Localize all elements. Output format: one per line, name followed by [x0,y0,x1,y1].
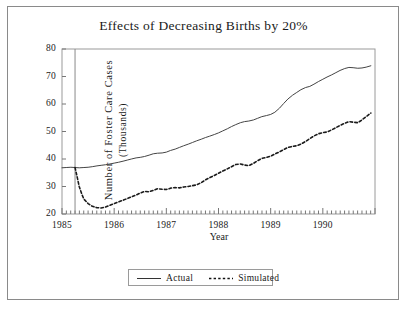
data-series [62,66,371,208]
y-tick-label: 20 [32,208,56,218]
legend-item-simulated: Simulated [209,273,279,283]
series-line-simulated [75,113,371,208]
x-tick-label: 1987 [146,220,186,230]
x-tick-label: 1990 [303,220,343,230]
x-tick-label: 1988 [199,220,239,230]
chart-legend: Actual Simulated [128,269,273,286]
legend-swatch-solid-icon [137,274,161,281]
x-tick-label: 1985 [42,220,82,230]
legend-label-actual: Actual [166,273,193,283]
y-tick-label: 80 [32,43,56,53]
y-tick-label: 40 [32,153,56,163]
chart-figure: Effects of Decreasing Births by 20% Numb… [0,0,407,309]
y-tick-label: 30 [32,181,56,191]
plot-area [0,0,407,309]
legend-item-actual: Actual [137,273,193,283]
x-tick-label: 1989 [251,220,291,230]
y-tick-label: 70 [32,71,56,81]
legend-label-simulated: Simulated [238,273,279,283]
series-line-actual [62,66,371,168]
y-tick-label: 50 [32,126,56,136]
legend-swatch-dotted-icon [209,274,233,281]
x-tick-label: 1986 [94,220,134,230]
y-tick-label: 60 [32,98,56,108]
